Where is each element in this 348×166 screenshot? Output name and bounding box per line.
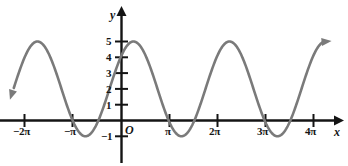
y-tick-label--1: −1 [101,131,112,142]
sine-curve-path [14,42,324,137]
graph-figure: −2π −π π 2π 3π 4π 5 4 3 2 1 −1 y x O [0,0,348,166]
y-tick-label-4: 4 [106,52,111,63]
x-tick-label-pi: π [165,126,171,137]
x-axis-arrowhead [334,116,344,126]
x-tick-label--2pi: −2π [13,126,30,137]
curve-left-arrowhead [9,89,17,100]
x-axis-label: x [334,126,340,138]
x-tick-label-3pi: 3π [257,126,268,137]
x-tick-label-2pi: 2π [209,126,220,137]
y-tick-label-3: 3 [106,68,111,79]
plot-canvas [0,0,348,166]
y-axis-arrowhead [117,6,127,16]
y-axis [117,6,127,163]
x-tick-label-4pi: 4π [305,126,316,137]
y-axis-label: y [110,9,115,21]
y-tick-label-1: 1 [106,100,111,111]
x-tick-label--pi: −π [64,126,76,137]
origin-label: O [125,124,134,136]
y-tick-label-5: 5 [106,36,111,47]
y-tick-label-2: 2 [106,84,111,95]
curve-right-arrowhead [321,38,331,46]
